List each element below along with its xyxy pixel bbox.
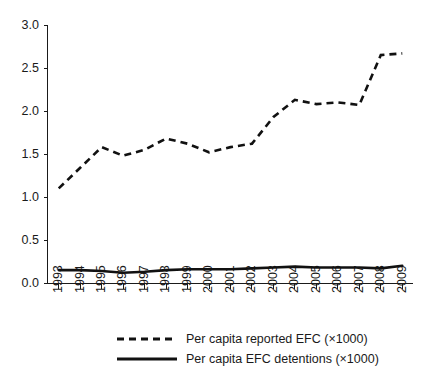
y-tick-group: 0.00.51.01.52.02.53.0 <box>22 18 48 290</box>
y-tick-label: 1.0 <box>22 190 39 204</box>
chart-container: 0.00.51.01.52.02.53.0 199319941995199619… <box>0 0 433 377</box>
x-tick-label: 2006 <box>330 265 344 293</box>
line-chart: 0.00.51.01.52.02.53.0 199319941995199619… <box>0 0 433 377</box>
y-tick-label: 0.0 <box>22 276 39 290</box>
legend-item-efc-detentions: Per capita EFC detentions (×1000) <box>117 352 379 366</box>
y-tick-label: 0.5 <box>22 233 39 247</box>
y-tick-label: 2.0 <box>22 104 39 118</box>
data-series-group <box>59 53 403 272</box>
x-tick-label: 2007 <box>352 265 366 293</box>
x-tick-label: 2004 <box>287 265 301 293</box>
y-tick-label: 2.5 <box>22 61 39 75</box>
legend-item-reported-efc: Per capita reported EFC (×1000) <box>117 332 368 346</box>
x-tick-label: 2003 <box>266 265 280 293</box>
series-per-capita-reported-efc <box>59 53 403 188</box>
y-tick-label: 3.0 <box>22 18 39 32</box>
x-tick-label: 2009 <box>395 265 409 293</box>
x-tick-label: 1996 <box>115 265 129 293</box>
y-tick-label: 1.5 <box>22 147 39 161</box>
x-tick-label: 1997 <box>137 265 151 293</box>
x-tick-label: 1995 <box>94 265 108 293</box>
legend-label-reported-efc: Per capita reported EFC (×1000) <box>186 332 368 346</box>
y-axis: 0.00.51.01.52.02.53.0 <box>22 18 48 290</box>
legend-label-efc-detentions: Per capita EFC detentions (×1000) <box>186 352 379 366</box>
chart-legend: Per capita reported EFC (×1000) Per capi… <box>117 332 379 366</box>
x-tick-label: 2005 <box>309 265 323 293</box>
